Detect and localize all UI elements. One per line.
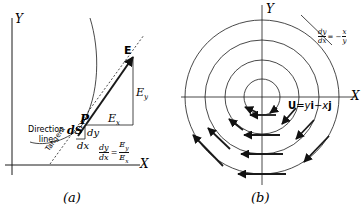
slope-equation-a: dydx = EyEx (99, 140, 129, 164)
caption-b: (b) (251, 190, 269, 205)
velocity-arrows (193, 107, 329, 174)
x-axis-label-a: X (140, 157, 149, 171)
ex-label: Ex (108, 112, 120, 127)
field-equation-label: U=yi−xj (288, 100, 332, 111)
ey-label: Ey (136, 86, 148, 101)
ds-label: dS (67, 124, 83, 137)
slope-equation-b: dydx = − xy (318, 28, 346, 45)
e-vector-label: E (124, 44, 132, 57)
caption-a: (a) (63, 190, 81, 205)
dy-label: dy (87, 127, 99, 138)
x-axis-label-b: X (351, 89, 360, 103)
dx-label: dx (77, 140, 89, 151)
y-axis-label-b: Y (266, 2, 274, 16)
y-axis-label-a: Y (15, 12, 23, 26)
